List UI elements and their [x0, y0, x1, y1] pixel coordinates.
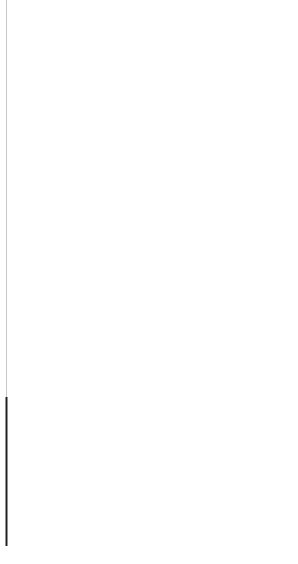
scatter-chart [0, 0, 298, 564]
chart-container [0, 0, 298, 564]
